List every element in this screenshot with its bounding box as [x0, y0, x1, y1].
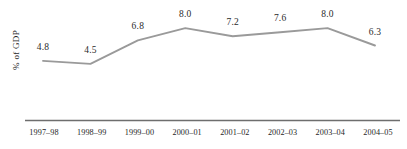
x-axis-tick-label: 2004–05: [363, 128, 392, 137]
x-axis-tick-label: 1997–98: [29, 128, 58, 137]
line-chart: % of GDP 4.84.56.88.07.27.68.06.3 1997–9…: [0, 0, 407, 149]
x-axis-tick-label: 2000–01: [172, 128, 201, 137]
x-axis-tick-label: 1999–00: [125, 128, 154, 137]
data-label: 4.8: [37, 42, 49, 52]
data-label: 6.3: [369, 27, 381, 37]
data-label: 4.5: [84, 45, 96, 55]
x-axis-tick-label: 1998–99: [77, 128, 106, 137]
data-label: 6.8: [132, 21, 144, 31]
x-axis-tick-label: 2002–03: [268, 128, 297, 137]
data-label: 7.2: [226, 17, 238, 27]
data-label: 8.0: [179, 9, 191, 19]
data-label: 7.6: [274, 13, 286, 23]
x-axis-tick-label: 2001–02: [220, 128, 249, 137]
data-label: 8.0: [321, 9, 333, 19]
x-axis-tick-label: 2003–04: [316, 128, 345, 137]
plot-area: [0, 0, 407, 149]
